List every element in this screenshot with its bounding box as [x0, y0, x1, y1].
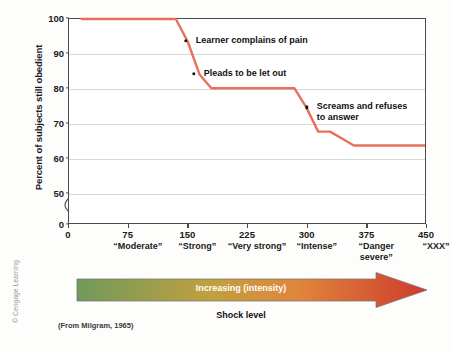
- y-axis-tick-labels: 10090807060500: [36, 0, 64, 352]
- annotation-pleads-to-be-let-out: Pleads to be let out: [204, 68, 287, 79]
- y-axis-tick-label: 100: [38, 13, 64, 24]
- x-axis-tick-mark: [187, 224, 188, 228]
- x-axis-category-label: “XXX”: [398, 241, 452, 252]
- x-axis-tick-mark: [128, 224, 129, 228]
- annotation-screams-and-refuses-to-answer: Screams and refuses to answer: [317, 101, 408, 123]
- x-axis-tick-mark: [307, 224, 308, 228]
- x-axis-tick-label: 450: [396, 229, 452, 240]
- x-axis-tick-label: 375: [336, 229, 396, 240]
- x-axis-tick-label: 300: [277, 229, 337, 240]
- y-axis-tick-label: 70: [38, 118, 64, 129]
- intensity-gradient-arrow: [76, 272, 428, 308]
- source-citation: (From Milgram, 1965): [58, 321, 133, 330]
- x-axis-tick-mark: [426, 224, 427, 228]
- x-axis-tick-mark: [68, 224, 69, 228]
- annotation-learner-complains-of-pain: Learner complains of pain: [196, 35, 308, 46]
- y-axis-tick-label: 60: [38, 153, 64, 164]
- x-axis-tick-mark: [366, 224, 367, 228]
- y-axis-tick-label: 50: [38, 188, 64, 199]
- figure-milgram-obedience-chart: Percent of subjects still obedient 10090…: [0, 0, 452, 352]
- x-axis-tick-label: 0: [38, 229, 98, 240]
- y-axis-tick-label: 90: [38, 48, 64, 59]
- x-axis-tick-label: 75: [98, 229, 158, 240]
- x-axis-tick-label: 150: [157, 229, 217, 240]
- x-axis-caption-shock-level: Shock level: [76, 310, 406, 320]
- x-axis-tick-label: 225: [217, 229, 277, 240]
- y-axis-tick-label: 0: [38, 219, 64, 230]
- x-axis-tick-mark: [247, 224, 248, 228]
- copyright-notice: © Cengage Learning: [12, 252, 19, 332]
- y-axis-tick-label: 80: [38, 83, 64, 94]
